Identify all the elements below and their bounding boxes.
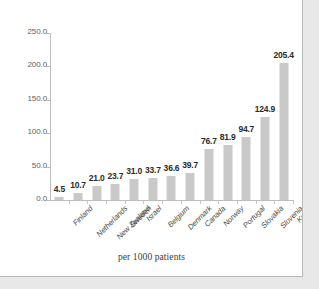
bar-value-label: 33.7 bbox=[145, 165, 161, 175]
bar-slot: 31.0 bbox=[125, 33, 144, 200]
bar[interactable] bbox=[92, 186, 101, 200]
y-axis-tick-label: 0.0 bbox=[36, 194, 47, 203]
bar[interactable] bbox=[260, 117, 269, 200]
x-axis-tick-mark bbox=[293, 201, 294, 204]
bar-value-label: 31.0 bbox=[126, 166, 142, 176]
bar[interactable] bbox=[242, 137, 251, 200]
bar-value-label: 39.7 bbox=[182, 160, 198, 170]
bar[interactable] bbox=[279, 63, 288, 200]
x-axis-tick-mark bbox=[106, 201, 107, 204]
y-axis-tick-label: 50.0 bbox=[32, 161, 47, 170]
y-axis-tick-label: 200.0 bbox=[27, 60, 47, 69]
y-axis-tick-label: 150.0 bbox=[27, 94, 47, 103]
x-axis-tick-mark bbox=[125, 201, 126, 204]
bar-value-label: 81.9 bbox=[220, 132, 236, 142]
bar-slot: 33.7 bbox=[143, 33, 162, 200]
bar-slot: 4.5 bbox=[50, 33, 69, 200]
bar-slot: 81.9 bbox=[218, 33, 237, 200]
chart-figure: 0.050.0100.0150.0200.0250.0 4.510.721.02… bbox=[0, 0, 303, 277]
bar[interactable] bbox=[148, 178, 157, 201]
y-axis-tick: 100.0 bbox=[0, 133, 56, 134]
x-axis-tick-mark bbox=[218, 201, 219, 204]
y-axis-tick-label: 100.0 bbox=[27, 127, 47, 136]
bar[interactable] bbox=[204, 149, 213, 200]
x-axis-tick-mark bbox=[69, 201, 70, 204]
bar-slot: 23.7 bbox=[106, 33, 125, 200]
x-axis-tick-mark bbox=[200, 201, 201, 204]
bar-slot: 76.7 bbox=[200, 33, 219, 200]
y-axis-tick-label: 250.0 bbox=[27, 27, 47, 36]
bar-value-label: 124.9 bbox=[255, 104, 275, 114]
bar[interactable] bbox=[55, 197, 64, 200]
bar[interactable] bbox=[167, 176, 176, 200]
bar-series: 4.510.721.023.731.033.736.639.776.781.99… bbox=[50, 33, 293, 200]
x-axis-title: per 1000 patients bbox=[0, 252, 303, 262]
bar-value-label: 36.6 bbox=[164, 163, 180, 173]
bar-slot: 205.4 bbox=[274, 33, 293, 200]
y-axis-tick: 0.0 bbox=[0, 200, 56, 201]
bar-slot: 124.9 bbox=[256, 33, 275, 200]
y-axis-tick: 50.0 bbox=[0, 167, 56, 168]
bar-value-label: 4.5 bbox=[54, 184, 65, 194]
bar-slot: 21.0 bbox=[87, 33, 106, 200]
x-axis-tick-mark bbox=[181, 201, 182, 204]
bar-slot: 39.7 bbox=[181, 33, 200, 200]
x-axis-tick-mark bbox=[274, 201, 275, 204]
x-axis-tick-mark bbox=[162, 201, 163, 204]
bar[interactable] bbox=[111, 184, 120, 200]
bar-slot: 10.7 bbox=[69, 33, 88, 200]
bar-value-label: 76.7 bbox=[201, 136, 217, 146]
bar-value-label: 205.4 bbox=[274, 50, 294, 60]
y-axis-tick: 250.0 bbox=[0, 33, 56, 34]
bar[interactable] bbox=[223, 145, 232, 200]
y-axis-tick: 150.0 bbox=[0, 100, 56, 101]
bar[interactable] bbox=[130, 179, 139, 200]
x-axis-tick-mark bbox=[256, 201, 257, 204]
bar-value-label: 21.0 bbox=[89, 173, 105, 183]
y-axis-tick: 200.0 bbox=[0, 66, 56, 67]
bar[interactable] bbox=[74, 193, 83, 200]
x-axis-category-label: Finland bbox=[71, 204, 94, 227]
bar-value-label: 23.7 bbox=[108, 171, 124, 181]
y-axis-tick-mark bbox=[46, 200, 50, 201]
bar-slot: 36.6 bbox=[162, 33, 181, 200]
bar-slot: 94.7 bbox=[237, 33, 256, 200]
bar[interactable] bbox=[186, 173, 195, 200]
bar-value-label: 94.7 bbox=[238, 124, 254, 134]
bar-value-label: 10.7 bbox=[70, 180, 86, 190]
